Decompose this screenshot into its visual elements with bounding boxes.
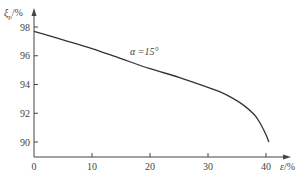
x-ticks: 010203040: [32, 153, 272, 172]
x-axis-label: ε/%: [280, 161, 295, 172]
y-tick-label: 98: [20, 22, 30, 33]
x-tick-label: 0: [32, 161, 37, 172]
y-tick-label: 96: [20, 50, 30, 61]
chart: 9092949698 010203040 ξp/% ε/% α =15°: [0, 0, 307, 181]
curve-annotation: α =15°: [130, 46, 159, 57]
x-axis-arrow-icon: [283, 155, 291, 160]
y-tick-label: 94: [20, 79, 30, 90]
y-tick-label: 90: [20, 137, 30, 148]
x-tick-label: 10: [87, 161, 97, 172]
y-axis-label: ξp/%: [4, 7, 23, 21]
y-tick-label: 92: [20, 108, 30, 119]
y-axis-arrow-icon: [32, 8, 37, 16]
x-tick-label: 30: [203, 161, 213, 172]
x-tick-label: 40: [261, 161, 271, 172]
y-ticks: 9092949698: [20, 22, 38, 148]
x-tick-label: 20: [145, 161, 155, 172]
